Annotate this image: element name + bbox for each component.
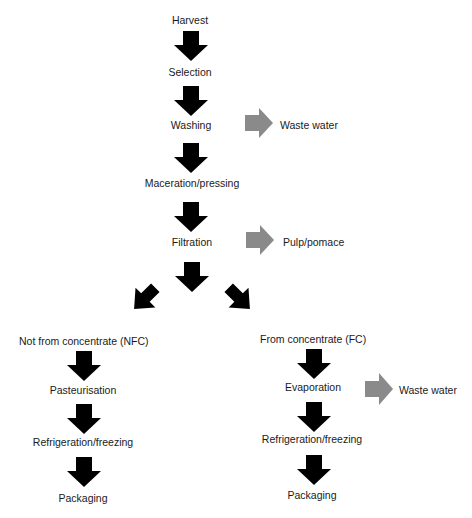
nfc-step-packaging: Packaging — [58, 492, 107, 504]
side-arrow-icon — [245, 108, 273, 138]
branch-nfc-title: Not from concentrate (NFC) — [19, 335, 149, 347]
output-waste-water-washing: Waste water — [280, 119, 338, 131]
down-arrow-icon — [67, 457, 101, 487]
down-arrow-icon — [174, 202, 208, 232]
step-maceration-pressing: Maceration/pressing — [145, 177, 240, 189]
nfc-step-refrigeration-freezing: Refrigeration/freezing — [33, 436, 133, 448]
down-arrow-icon — [175, 262, 209, 292]
down-arrow-icon — [174, 31, 208, 61]
down-arrow-icon — [67, 404, 101, 434]
down-arrow-icon — [174, 86, 208, 116]
down-arrow-icon — [297, 349, 331, 379]
step-harvest: Harvest — [172, 14, 208, 26]
fc-step-refrigeration-freezing: Refrigeration/freezing — [262, 433, 362, 445]
step-washing: Washing — [171, 119, 211, 131]
side-arrow-icon — [246, 225, 274, 255]
diagonal-arrow-right-icon — [223, 282, 257, 316]
diagonal-arrow-left-icon — [127, 282, 161, 316]
down-arrow-icon — [174, 143, 208, 173]
step-selection: Selection — [168, 66, 211, 78]
down-arrow-icon — [297, 402, 331, 432]
fc-step-evaporation: Evaporation — [285, 381, 341, 393]
juice-process-flowchart: Harvest Selection Washing Waste water Ma… — [0, 0, 472, 518]
branch-fc-title: From concentrate (FC) — [260, 333, 366, 345]
step-filtration: Filtration — [172, 236, 212, 248]
down-arrow-icon — [67, 351, 101, 381]
nfc-step-pasteurisation: Pasteurisation — [50, 384, 117, 396]
output-waste-water-evaporation: Waste water — [399, 384, 457, 396]
down-arrow-icon — [297, 455, 331, 485]
side-arrow-icon — [365, 373, 393, 405]
fc-step-packaging: Packaging — [287, 489, 336, 501]
output-pulp-pomace: Pulp/pomace — [283, 236, 344, 248]
